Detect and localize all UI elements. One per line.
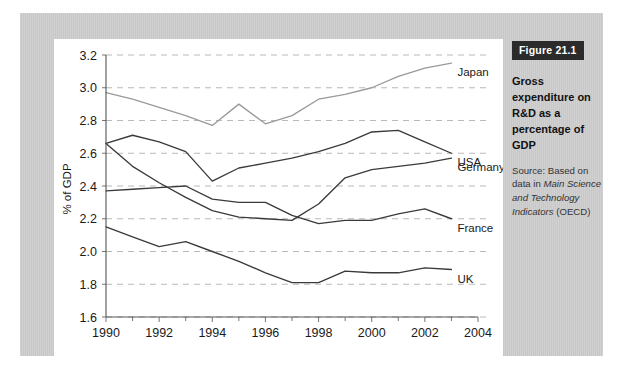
series-line-japan — [106, 63, 451, 125]
line-chart: 1.61.82.02.22.42.62.83.03.2 199019921994… — [54, 39, 503, 357]
y-tick-label: 2.8 — [80, 114, 97, 128]
x-tick-label: 2004 — [464, 326, 492, 340]
series-line-uk — [106, 227, 451, 283]
series-line-usa — [106, 130, 451, 181]
figure-number-badge: Figure 21.1 — [512, 41, 584, 60]
figure-title: Gross expenditure on R&D as a percentage… — [512, 74, 608, 154]
y-axis-title: % of GDP — [61, 163, 73, 214]
chart-card: 1.61.82.02.22.42.62.83.03.2 199019921994… — [54, 39, 503, 357]
x-tick-label: 2002 — [411, 326, 439, 340]
figure-source: Source: Based on data in Main Science an… — [512, 164, 608, 218]
y-tick-label: 3.0 — [80, 81, 97, 95]
x-tick-label: 1992 — [145, 326, 173, 340]
figure-caption-column: Figure 21.1 Gross expenditure on R&D as … — [512, 39, 612, 357]
y-tick-label: 1.8 — [80, 278, 97, 292]
y-tick-label: 2.6 — [80, 147, 97, 161]
series-lines-group — [106, 63, 451, 282]
x-tick-label: 1998 — [305, 326, 333, 340]
series-label-uk: UK — [457, 273, 473, 285]
gridlines-group — [106, 55, 486, 317]
x-tick-label: 1994 — [198, 326, 226, 340]
y-tick-label: 2.2 — [80, 212, 97, 226]
figure-background-mat: 1.61.82.02.22.42.62.83.03.2 199019921994… — [20, 13, 603, 356]
y-tick-label: 3.2 — [80, 49, 97, 63]
x-tick-label: 2000 — [358, 326, 386, 340]
x-tick-labels-group: 19901992199419961998200020022004 — [92, 326, 492, 340]
y-tick-label: 2.4 — [80, 180, 97, 194]
page-root: 1.61.82.02.22.42.62.83.03.2 199019921994… — [0, 0, 619, 376]
y-tick-label: 2.0 — [80, 245, 97, 259]
series-label-germany: Germany — [457, 161, 503, 173]
source-suffix: (OECD) — [554, 206, 591, 217]
series-label-japan: Japan — [457, 66, 488, 78]
series-line-france — [106, 186, 451, 224]
x-tick-label: 1996 — [252, 326, 280, 340]
series-label-france: France — [457, 222, 493, 234]
y-tick-labels-group: 1.61.82.02.22.42.62.83.03.2 — [80, 49, 97, 325]
y-tick-label: 1.6 — [80, 311, 97, 325]
x-tick-label: 1990 — [92, 326, 120, 340]
